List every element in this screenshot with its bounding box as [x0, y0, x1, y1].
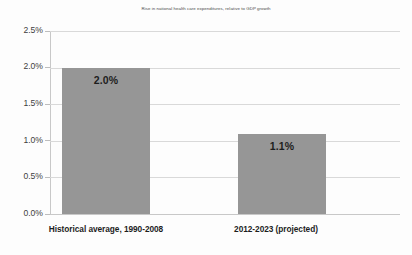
bar-projected: 1.1%	[238, 134, 326, 215]
bar-value-label-historical-average: 2.0%	[62, 74, 150, 86]
y-tick-label-1-0: 1.0%	[1, 136, 43, 145]
gridline-2-5	[50, 31, 400, 32]
chart-subtitle: Rise in national health care expenditure…	[0, 6, 412, 12]
bar-value-label-projected: 1.1%	[238, 140, 326, 152]
gridline-baseline-0-0	[50, 214, 400, 215]
y-tick-label-2-0: 2.0%	[1, 62, 43, 71]
y-axis-labels: 2.5% 2.0% 1.5% 1.0% 0.5% 0.0%	[0, 0, 43, 255]
bar-historical-average: 2.0%	[62, 68, 150, 214]
plot-area: 2.0% 1.1%	[50, 31, 400, 214]
bar-chart-figure: Rise in national health care expenditure…	[0, 0, 412, 255]
category-label-historical-average: Historical average, 1990-2008	[22, 224, 190, 234]
category-label-projected: 2012-2023 (projected)	[204, 224, 348, 234]
y-tick-label-2-5: 2.5%	[1, 26, 43, 35]
y-tick-label-0-5: 0.5%	[1, 172, 43, 181]
y-tick-label-1-5: 1.5%	[1, 99, 43, 108]
y-tick-label-0-0: 0.0%	[1, 209, 43, 218]
